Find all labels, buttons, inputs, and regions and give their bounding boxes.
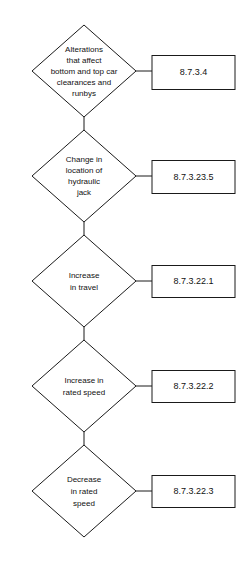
- node-1-line-1: Alterations: [65, 45, 103, 54]
- reference-label-3: 8.7.3.22.1: [173, 276, 213, 286]
- node-2-line-4: jack: [76, 188, 92, 197]
- decision-node-5[interactable]: Decrease in rated speed: [32, 445, 136, 537]
- reference-label-4: 8.7.3.22.2: [173, 381, 213, 391]
- node-1-line-2: that affect: [67, 56, 103, 65]
- diamond-shape-2: [32, 130, 136, 222]
- reference-box-5[interactable]: 8.7.3.22.3: [152, 476, 235, 508]
- node-3-line-2: in travel: [70, 283, 98, 292]
- reference-label-5: 8.7.3.22.3: [173, 486, 213, 496]
- decision-node-4[interactable]: Increase in rated speed: [32, 340, 136, 432]
- node-1-line-4: clearances and: [57, 78, 111, 87]
- decision-node-1[interactable]: Alterations that affect bottom and top c…: [32, 25, 136, 117]
- reference-box-2[interactable]: 8.7.3.23.5: [152, 161, 235, 194]
- node-4-line-2: rated speed: [63, 388, 105, 397]
- node-1-line-5: runbys: [72, 89, 96, 98]
- reference-box-3[interactable]: 8.7.3.22.1: [152, 266, 235, 298]
- reference-box-4[interactable]: 8.7.3.22.2: [152, 371, 235, 403]
- reference-label-1: 8.7.3.4: [180, 67, 208, 77]
- node-2-line-3: hydraulic: [68, 177, 100, 186]
- diamond-shape-4: [32, 340, 136, 432]
- node-2-line-1: Change in: [66, 155, 102, 164]
- node-5-line-1: Decrease: [67, 475, 102, 484]
- node-1-line-3: bottom and top car: [51, 67, 118, 76]
- decision-node-2[interactable]: Change in location of hydraulic jack: [32, 130, 136, 222]
- node-5-line-2: in rated: [71, 487, 98, 496]
- node-3-line-1: Increase: [69, 271, 100, 280]
- node-2-line-2: location of: [66, 166, 103, 175]
- decision-node-3[interactable]: Increase in travel: [32, 235, 136, 327]
- flowchart-canvas: Alterations that affect bottom and top c…: [0, 0, 250, 563]
- reference-box-1[interactable]: 8.7.3.4: [152, 56, 235, 90]
- flowchart-diagram: Alterations that affect bottom and top c…: [0, 0, 250, 563]
- diamond-shape-3: [32, 235, 136, 327]
- reference-label-2: 8.7.3.23.5: [173, 172, 213, 182]
- node-4-line-1: Increase in: [64, 376, 103, 385]
- node-5-line-3: speed: [73, 499, 95, 508]
